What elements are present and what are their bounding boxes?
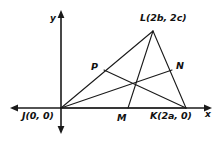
x-axis-left-arrow-icon: [10, 105, 18, 112]
point-label-j: J(0, 0): [22, 111, 54, 121]
geometry-diagram: J(0, 0) K(2a, 0) L(2b, 2c) M N P x y: [0, 0, 219, 142]
point-label-l: L(2b, 2c): [140, 13, 186, 23]
point-label-p: P: [91, 62, 98, 72]
point-label-k: K(2a, 0): [150, 111, 192, 121]
x-axis-label: x: [205, 110, 211, 119]
segment-j-to-l: [61, 31, 153, 108]
y-axis-down-arrow-icon: [58, 126, 65, 134]
segment-l-to-m: [128, 31, 153, 108]
y-axis-up-arrow-icon: [58, 10, 65, 18]
y-axis-label: y: [50, 14, 56, 23]
point-label-m: M: [117, 113, 126, 123]
point-label-n: N: [176, 61, 184, 71]
